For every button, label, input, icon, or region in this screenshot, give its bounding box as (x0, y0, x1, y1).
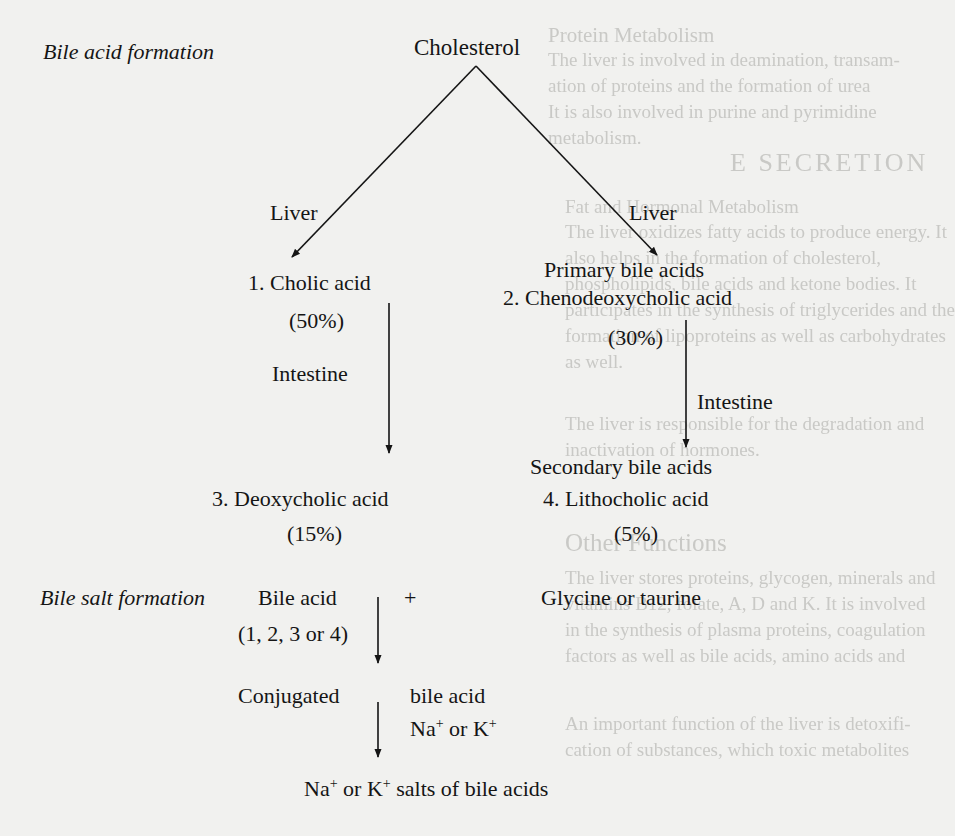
or-k-text: or K (338, 776, 383, 801)
node-final-salts: Na+ or K+ salts of bile acids (304, 778, 548, 800)
node-glycine-or-taurine: Glycine or taurine (541, 587, 701, 609)
note-bile-acid-numbers: (1, 2, 3 or 4) (238, 623, 348, 645)
node-conjugated-bile-acid: bile acid (410, 685, 485, 707)
percent-chenodeoxycholic-acid: (30%) (608, 327, 663, 349)
plus-sign: + (404, 587, 416, 609)
reagent-na-or-k: Na+ or K+ (410, 718, 497, 740)
label-liver-left: Liver (270, 202, 318, 224)
label-intestine-left: Intestine (272, 363, 348, 385)
salts-text: salts of bile acids (391, 776, 549, 801)
node-conjugated: Conjugated (238, 685, 339, 707)
label-primary-bile-acids: Primary bile acids (544, 259, 704, 281)
node-chenodeoxycholic-acid: 2. Chenodeoxycholic acid (503, 287, 732, 309)
node-bile-acid: Bile acid (258, 587, 337, 609)
na-text: Na (304, 776, 330, 801)
percent-deoxycholic-acid: (15%) (287, 523, 342, 545)
node-cholic-acid: 1. Cholic acid (248, 272, 371, 294)
arrow-cholesterol-to-right (476, 66, 657, 255)
percent-cholic-acid: (50%) (289, 310, 344, 332)
node-cholesterol: Cholesterol (414, 36, 520, 59)
plus-superscript: + (489, 716, 497, 731)
label-liver-right: Liver (629, 202, 677, 224)
node-lithocholic-acid: 4. Lithocholic acid (543, 488, 709, 510)
plus-superscript: + (436, 716, 444, 731)
plus-superscript: + (330, 776, 338, 791)
arrow-cholesterol-to-left (292, 66, 476, 257)
na-text: Na (410, 716, 436, 741)
percent-lithocholic-acid: (5%) (614, 523, 658, 545)
or-k-text: or K (444, 716, 489, 741)
section-title-bile-acid-formation: Bile acid formation (43, 41, 214, 63)
label-secondary-bile-acids: Secondary bile acids (530, 456, 712, 478)
section-title-bile-salt-formation: Bile salt formation (40, 587, 205, 609)
plus-superscript: + (383, 776, 391, 791)
node-deoxycholic-acid: 3. Deoxycholic acid (212, 488, 389, 510)
label-intestine-right: Intestine (697, 391, 773, 413)
